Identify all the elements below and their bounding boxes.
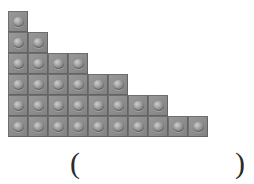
block xyxy=(88,74,108,95)
block-row xyxy=(8,95,208,116)
block xyxy=(8,11,28,32)
block xyxy=(28,116,48,137)
block xyxy=(8,116,28,137)
block-stud-icon xyxy=(193,122,204,132)
block xyxy=(48,95,68,116)
worksheet-page: ( ) xyxy=(0,0,254,184)
block-stud-icon xyxy=(13,101,24,111)
block-stud-icon xyxy=(93,122,104,132)
block xyxy=(108,116,128,137)
open-parenthesis: ( xyxy=(70,148,80,178)
block xyxy=(148,95,168,116)
answer-input-value[interactable] xyxy=(84,150,232,178)
block-stud-icon xyxy=(73,80,84,90)
block xyxy=(88,116,108,137)
block-row xyxy=(8,53,208,74)
block xyxy=(8,74,28,95)
block xyxy=(48,74,68,95)
block xyxy=(8,53,28,74)
block xyxy=(108,95,128,116)
block-stud-icon xyxy=(13,122,24,132)
block-stud-icon xyxy=(13,80,24,90)
block-stud-icon xyxy=(153,122,164,132)
block-stud-icon xyxy=(33,101,44,111)
block xyxy=(8,95,28,116)
block-stud-icon xyxy=(13,17,24,27)
block-stud-icon xyxy=(13,59,24,69)
answer-field[interactable]: ( ) xyxy=(0,148,254,182)
block xyxy=(48,116,68,137)
block xyxy=(48,53,68,74)
block-row xyxy=(8,11,208,32)
block xyxy=(28,53,48,74)
block xyxy=(28,74,48,95)
block-stud-icon xyxy=(53,80,64,90)
block-row xyxy=(8,116,208,137)
block-stud-icon xyxy=(53,101,64,111)
block-stud-icon xyxy=(93,80,104,90)
block-stud-icon xyxy=(133,101,144,111)
block-stud-icon xyxy=(53,122,64,132)
block-row xyxy=(8,32,208,53)
block-stud-icon xyxy=(93,101,104,111)
block xyxy=(188,116,208,137)
block-row xyxy=(8,74,208,95)
block xyxy=(108,74,128,95)
block-stud-icon xyxy=(73,59,84,69)
block xyxy=(168,116,188,137)
block xyxy=(128,95,148,116)
block-stud-icon xyxy=(33,80,44,90)
block xyxy=(128,116,148,137)
close-parenthesis: ) xyxy=(235,148,245,178)
block xyxy=(8,32,28,53)
block-stud-icon xyxy=(173,122,184,132)
block-stud-icon xyxy=(113,101,124,111)
block-stud-icon xyxy=(13,38,24,48)
block xyxy=(28,95,48,116)
block-stud-icon xyxy=(113,122,124,132)
block-stud-icon xyxy=(73,122,84,132)
block-stud-icon xyxy=(53,59,64,69)
block xyxy=(68,95,88,116)
block-staircase-figure xyxy=(8,11,208,137)
block xyxy=(68,53,88,74)
block-stud-icon xyxy=(33,122,44,132)
block xyxy=(68,116,88,137)
block-stud-icon xyxy=(33,38,44,48)
block-stud-icon xyxy=(73,101,84,111)
block xyxy=(88,95,108,116)
block xyxy=(28,32,48,53)
block-stud-icon xyxy=(113,80,124,90)
block-stud-icon xyxy=(33,59,44,69)
block xyxy=(68,74,88,95)
block-stud-icon xyxy=(153,101,164,111)
block xyxy=(148,116,168,137)
block-stud-icon xyxy=(133,122,144,132)
